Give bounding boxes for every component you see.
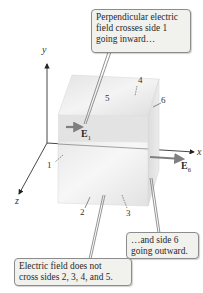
callout-side1-inward: Perpendicular electric field crosses sid… xyxy=(91,9,191,53)
callout-bottom-pointer-2 xyxy=(91,195,105,259)
callout-line: going outward. xyxy=(131,246,194,257)
callout-line: Perpendicular electric xyxy=(96,12,186,23)
y-axis-label: y xyxy=(42,44,46,55)
callout-line: field crosses side 1 xyxy=(96,23,186,34)
callout-bottom-pointer xyxy=(89,195,103,259)
callout-side6-outward: …and side 6 going outward. xyxy=(126,232,199,259)
callout-no-crossing: Electric field does not cross sides 2, 3… xyxy=(14,258,132,286)
face-label-2: 2 xyxy=(80,207,85,217)
z-axis-label: z xyxy=(15,195,19,206)
e6-label: E6 xyxy=(181,160,191,173)
callout-line: …and side 6 xyxy=(131,235,194,246)
callout-line: going inward… xyxy=(96,34,186,45)
x-axis-label: x xyxy=(197,146,201,157)
face-label-3: 3 xyxy=(126,208,131,218)
gauss-cube-diagram: y x z 4 5 6 1 2 3 E1 E6 Perpendicular el… xyxy=(0,0,203,293)
face-label-1: 1 xyxy=(47,160,52,170)
cube-face-1 xyxy=(58,115,148,142)
callout-line: Electric field does not xyxy=(19,261,127,272)
face-label-6: 6 xyxy=(161,95,166,105)
z-axis xyxy=(19,143,47,194)
face-label-5: 5 xyxy=(105,93,110,103)
e1-label: E1 xyxy=(81,128,91,141)
callout-line: cross sides 2, 3, 4, and 5. xyxy=(19,272,127,283)
face-label-4: 4 xyxy=(138,75,143,85)
callout-right-pointer-2 xyxy=(152,178,160,233)
